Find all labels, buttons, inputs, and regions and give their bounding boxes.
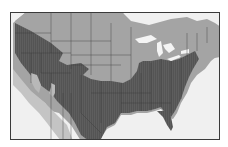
range-map: [11, 13, 220, 140]
map-frame: [10, 12, 220, 140]
